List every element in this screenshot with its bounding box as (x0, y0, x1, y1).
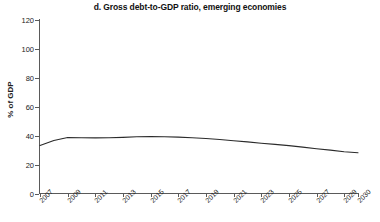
series-layer (0, 0, 380, 222)
chart-container: d. Gross debt-to-GDP ratio, emerging eco… (0, 0, 380, 222)
data-line-gross-debt (40, 137, 358, 153)
